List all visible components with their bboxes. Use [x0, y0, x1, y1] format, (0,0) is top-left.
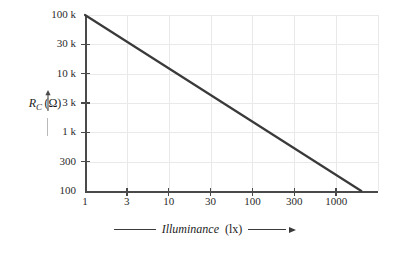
gridline-horizontal [85, 15, 378, 16]
gridline-horizontal [85, 74, 378, 75]
gridline-horizontal [85, 162, 378, 163]
x-axis-title-rule-left [114, 229, 156, 230]
x-tick-label: 1000 [306, 195, 366, 207]
x-axis-title: Illuminance (lx) [95, 222, 315, 237]
x-axis-line [85, 191, 378, 193]
y-axis-title-symbol: R [29, 96, 36, 110]
gridline-vertical [127, 15, 128, 191]
plot-area [85, 15, 378, 191]
y-tick-label: 300 [18, 155, 76, 167]
x-axis-title-rule-right [248, 229, 286, 230]
y-axis-title-subscript: C [36, 102, 42, 112]
y-tick-label: 100 k [18, 8, 76, 20]
gridline-vertical [252, 15, 253, 191]
gridline-vertical [169, 15, 170, 191]
x-axis-title-unit: (lx) [225, 222, 242, 237]
gridline-vertical [378, 15, 379, 191]
y-tick-mark [81, 132, 90, 134]
y-axis-title: RC (Ω) [14, 96, 76, 112]
gridline-vertical [211, 15, 212, 191]
y-tick-mark [81, 73, 90, 75]
y-axis-arrow-icon [44, 90, 52, 112]
y-tick-label: 30 k [18, 37, 76, 49]
gridline-vertical [336, 15, 337, 191]
gridline-horizontal [85, 103, 378, 104]
x-axis-title-text: Illuminance [162, 222, 219, 237]
chart-page: 100 k30 k10 k3 k1 k300100 13103010030010… [0, 0, 403, 254]
y-axis-title-stem [47, 118, 48, 136]
x-axis-arrow-icon [286, 226, 296, 234]
y-tick-mark [81, 44, 90, 46]
gridline-vertical [294, 15, 295, 191]
y-tick-label: 10 k [18, 67, 76, 79]
gridline-horizontal [85, 44, 378, 45]
y-tick-mark [81, 161, 90, 163]
gridline-horizontal [85, 132, 378, 133]
y-tick-mark [81, 102, 90, 104]
